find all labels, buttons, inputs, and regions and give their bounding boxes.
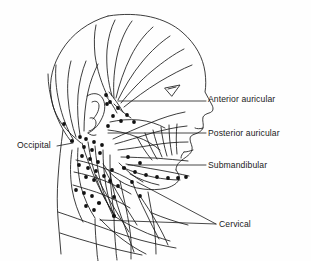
node-supraclavicular-3 (138, 194, 142, 198)
node-anterior-auricular-3 (108, 100, 112, 104)
node-cervical-m7 (92, 208, 96, 212)
node-cervical-u9 (96, 160, 100, 164)
label-posterior-auricular: Posterior auricular (208, 129, 280, 138)
sternocleidomastoid-line (110, 172, 134, 252)
facial-vessel-1 (113, 112, 185, 139)
leader-cervical-lower (100, 220, 216, 224)
facial-vessel-3 (118, 142, 188, 150)
node-submental-1 (184, 175, 188, 179)
node-occipital-3 (78, 135, 82, 139)
node-cervical-u14 (92, 178, 96, 182)
node-supraclavicular-2 (130, 180, 134, 184)
supraclavicular-vessel (140, 196, 168, 245)
node-cervical-u2 (92, 140, 96, 144)
occipital-vessel-1 (68, 61, 76, 137)
label-occipital: Occipital (17, 141, 51, 150)
node-cervical-m2 (82, 191, 86, 195)
node-cervical-u15 (102, 174, 106, 178)
node-cervical-u16 (110, 168, 114, 172)
node-submandibular-3 (144, 173, 148, 177)
node-cervical-u17 (108, 179, 112, 183)
cervical-to-shoulder-2 (100, 219, 146, 254)
node-cervical-u6 (98, 151, 102, 155)
submandibular-vessel-1 (124, 168, 180, 180)
label-anterior-auricular: Anterior auricular (208, 95, 275, 104)
node-parotid-2 (106, 124, 110, 128)
deep-neck-vessel-1 (104, 168, 137, 225)
cranium-outline (108, 14, 213, 170)
node-cervical-u12 (94, 169, 98, 173)
node-cervical-m5 (112, 195, 116, 199)
node-cervical-m1 (74, 188, 78, 192)
nostril-line (195, 128, 203, 129)
node-facial-1 (138, 161, 142, 165)
node-anterior-auricular-5 (125, 113, 129, 117)
scalp-vessel-7 (94, 25, 108, 97)
parotid-vessel-1 (110, 120, 165, 128)
node-cervical-u5 (90, 148, 94, 152)
node-cervical-u11 (86, 166, 90, 170)
node-cervical-m6 (84, 204, 88, 208)
ear-lobe (88, 133, 96, 135)
node-parotid-3 (132, 120, 136, 124)
node-occipital-2 (62, 122, 66, 126)
node-anterior-auricular-6 (111, 114, 115, 118)
ear-helix (87, 94, 105, 133)
node-anterior-auricular-1 (104, 93, 108, 97)
occipital-vessel-2 (56, 65, 73, 139)
facial-vessel-4 (121, 157, 188, 161)
node-cervical-u18 (116, 184, 120, 188)
throat-contour (148, 192, 156, 254)
node-occipital-1 (70, 139, 74, 143)
leader-occipital (57, 143, 73, 146)
label-cervical: Cervical (219, 220, 251, 229)
node-cervical-u13 (84, 175, 88, 179)
node-cervical-m3 (90, 194, 94, 198)
occipital-skull-outline (50, 16, 108, 143)
node-cervical-u10 (77, 163, 81, 167)
label-submandibular: Submandibular (208, 161, 267, 170)
node-cervical-m4 (97, 201, 101, 205)
cheek-vessel-4 (161, 127, 167, 156)
cervical-descending-1 (114, 217, 117, 260)
node-cervical-u3 (100, 143, 104, 147)
node-cervical-u8 (88, 157, 92, 161)
node-submandibular-1 (122, 166, 126, 170)
neck-back-outline (57, 130, 63, 254)
occipital-vessel-4 (78, 61, 86, 135)
node-submandibular-5 (166, 176, 170, 180)
leader-cervical-upper (137, 182, 216, 224)
cheek-vessel-6 (176, 124, 177, 154)
node-anterior-auricular-4 (116, 106, 120, 110)
mouth-corner (181, 152, 184, 158)
node-submandibular-6 (176, 176, 180, 180)
node-supraclavicular-1 (112, 214, 116, 218)
cheek-vessel-5 (169, 125, 172, 155)
node-cervical-u1 (84, 137, 88, 141)
node-parotid-1 (119, 119, 123, 123)
lymph-node-diagram: Occipital Anterior auricular Posterior a… (0, 0, 311, 261)
node-facial-2 (126, 155, 130, 159)
eye-marking (165, 85, 180, 96)
node-submandibular-4 (155, 175, 159, 179)
ear-antihelix (92, 101, 99, 119)
node-cervical-u7 (80, 154, 84, 158)
facial-vessel-5 (126, 164, 189, 176)
node-cervical-u4 (82, 145, 86, 149)
node-submandibular-2 (133, 170, 137, 174)
